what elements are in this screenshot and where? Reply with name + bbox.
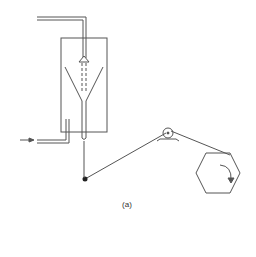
fiber-line (84, 131, 230, 179)
fiber-end (83, 177, 88, 182)
vessel (61, 38, 107, 132)
hexagonal-reel (196, 153, 240, 193)
figure-caption: (a) (112, 200, 142, 209)
spray-stream (82, 63, 86, 93)
funnel (65, 67, 103, 140)
guide-pulley (157, 128, 179, 141)
diagram (0, 0, 256, 257)
inlet-pipe (37, 119, 69, 143)
arrow-right-icon (20, 138, 34, 142)
nozzle (79, 56, 89, 62)
